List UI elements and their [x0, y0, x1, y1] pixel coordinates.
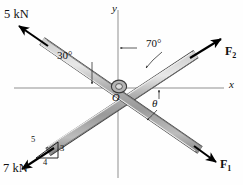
force-f1-subscript: 1	[227, 164, 231, 173]
label-axis-y: y	[112, 3, 117, 14]
label-axis-x: x	[229, 79, 234, 90]
pin-hub	[111, 80, 126, 93]
label-angle-70: 70°	[146, 38, 161, 49]
label-force-7kn: 7 kN	[3, 162, 28, 175]
label-force-5kn: 5 kN	[4, 8, 29, 21]
bar-7kn-f2	[48, 53, 196, 153]
arrow-f1	[194, 146, 216, 162]
diagram-canvas	[0, 0, 243, 185]
label-angle-theta: θ	[152, 98, 157, 109]
label-triangle-hypotenuse: 5	[31, 135, 35, 144]
label-triangle-horizontal: 4	[43, 158, 47, 167]
force-diagram: 5 kN 7 kN 30° 70° θ F2 F1 x y O 5 3 4	[0, 0, 243, 185]
label-triangle-vertical: 3	[60, 144, 64, 153]
label-force-f2: F2	[225, 45, 236, 60]
force-f2-subscript: 2	[232, 51, 236, 60]
arrow-f2	[190, 39, 221, 58]
label-origin: O	[112, 93, 120, 104]
angle-70-leader	[120, 48, 162, 68]
arrow-5kn	[19, 26, 48, 46]
label-angle-30: 30°	[57, 50, 72, 61]
label-force-f1: F1	[220, 158, 231, 173]
